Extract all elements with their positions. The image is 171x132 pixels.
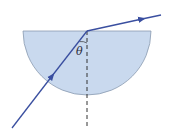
refracted-ray-continued <box>142 15 161 19</box>
refraction-diagram: θ <box>0 0 171 132</box>
incident-ray <box>12 76 52 128</box>
refracted-ray <box>87 19 142 31</box>
theta-label: θ <box>76 45 83 58</box>
